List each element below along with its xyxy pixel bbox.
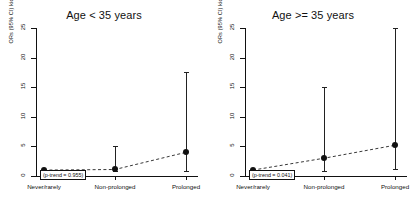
y-tick-label: 0 <box>20 168 26 182</box>
p-trend-annotation: (p-trend = 0.041) <box>249 170 295 180</box>
data-point <box>112 166 118 172</box>
data-point <box>183 149 189 155</box>
y-tick-label: 5 <box>229 138 235 152</box>
y-tick-label: 25 <box>20 20 26 34</box>
y-axis-line <box>36 28 37 176</box>
y-tick-label: 20 <box>20 50 26 64</box>
trend-line <box>0 0 208 209</box>
y-tick <box>240 87 245 88</box>
panel-age-35-and-over: Age >= 35 years ORs (95% CI) kidney dise… <box>209 0 417 209</box>
y-axis-label: ORs (95% CI) kidney diseases <box>8 0 14 54</box>
panel-title: Age < 35 years <box>0 9 208 21</box>
y-tick-label: 15 <box>20 79 26 93</box>
y-tick-label: 15 <box>229 79 235 93</box>
y-tick <box>240 176 245 177</box>
panel-title: Age >= 35 years <box>209 9 417 21</box>
y-axis-line <box>245 28 246 176</box>
x-tick-label: Prolonged <box>172 183 200 190</box>
x-tick <box>115 176 116 180</box>
error-bar-cap <box>393 28 398 29</box>
y-tick <box>31 28 36 29</box>
x-tick-label: Never/rarely <box>236 183 270 190</box>
y-tick <box>31 58 36 59</box>
y-tick-label: 0 <box>229 168 235 182</box>
y-tick <box>240 146 245 147</box>
x-tick <box>186 176 187 180</box>
x-tick-label: Prolonged <box>381 183 409 190</box>
y-tick <box>31 146 36 147</box>
y-tick-label: 10 <box>229 109 235 123</box>
x-tick-label: Non-prolonged <box>95 183 136 190</box>
y-tick <box>240 117 245 118</box>
x-tick <box>395 176 396 180</box>
y-tick <box>31 87 36 88</box>
y-tick-label: 20 <box>229 50 235 64</box>
p-trend-annotation: (p-trend = 0.955) <box>40 170 86 180</box>
data-point <box>321 155 327 161</box>
y-tick <box>31 176 36 177</box>
x-tick-label: Never/rarely <box>27 183 61 190</box>
error-bar-cap <box>113 146 118 147</box>
x-tick-label: Non-prolonged <box>304 183 345 190</box>
figure-two-panel-or-plot: Age < 35 years ORs (95% CI) kidney disea… <box>0 0 417 209</box>
error-bar-cap <box>184 72 189 73</box>
panel-age-under-35: Age < 35 years ORs (95% CI) kidney disea… <box>0 0 208 209</box>
y-tick <box>240 58 245 59</box>
y-tick-label: 5 <box>20 138 26 152</box>
y-tick-label: 10 <box>20 109 26 123</box>
trend-line <box>209 0 417 209</box>
error-bar-cap <box>322 87 327 88</box>
data-point <box>392 142 398 148</box>
y-tick <box>240 28 245 29</box>
error-bar-cap <box>322 171 327 172</box>
error-bar-cap <box>393 169 398 170</box>
error-bar <box>186 72 187 171</box>
error-bar-cap <box>184 171 189 172</box>
y-tick-label: 25 <box>229 20 235 34</box>
x-tick <box>324 176 325 180</box>
y-axis-label: ORs (95% CI) kidney diseases <box>217 0 223 54</box>
y-tick <box>31 117 36 118</box>
